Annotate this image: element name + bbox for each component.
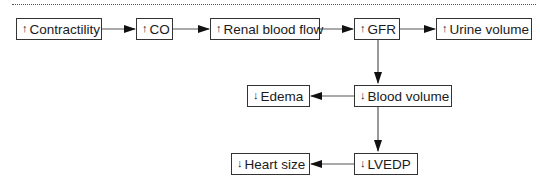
node-contractility: ↑ Contractility — [16, 18, 102, 40]
node-lvedp: ↓ LVEDP — [354, 153, 418, 175]
node-label: Edema — [261, 89, 304, 104]
node-label: Blood volume — [368, 89, 450, 104]
node-label: Heart size — [245, 157, 306, 172]
node-blood-volume: ↓ Blood volume — [354, 85, 452, 107]
up-arrow-icon: ↑ — [360, 22, 366, 34]
down-arrow-icon: ↓ — [237, 157, 243, 169]
down-arrow-icon: ↓ — [253, 89, 259, 101]
down-arrow-icon: ↓ — [360, 157, 366, 169]
node-renal-blood-flow: ↑ Renal blood flow — [210, 18, 320, 40]
node-edema: ↓ Edema — [247, 85, 310, 107]
up-arrow-icon: ↑ — [442, 22, 448, 34]
node-label: Contractility — [30, 22, 101, 37]
node-label: LVEDP — [368, 157, 411, 172]
up-arrow-icon: ↑ — [142, 22, 148, 34]
up-arrow-icon: ↑ — [216, 22, 222, 34]
node-co: ↑ CO — [136, 18, 173, 40]
node-label: Urine volume — [450, 22, 530, 37]
node-heart-size: ↓ Heart size — [231, 153, 310, 175]
node-urine-volume: ↑ Urine volume — [436, 18, 532, 40]
up-arrow-icon: ↑ — [22, 22, 28, 34]
down-arrow-icon: ↓ — [360, 89, 366, 101]
node-label: CO — [150, 22, 170, 37]
node-gfr: ↑ GFR — [354, 18, 400, 40]
node-label: Renal blood flow — [224, 22, 324, 37]
node-label: GFR — [368, 22, 397, 37]
